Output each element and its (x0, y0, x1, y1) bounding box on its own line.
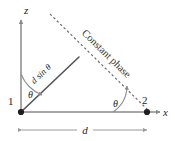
angle-label-origin: θ (28, 89, 33, 100)
antenna-path-difference-diagram: z x 1 2 θ θ d sin θ Constant phase d (0, 0, 175, 141)
angle-label-node2: θ (113, 98, 118, 109)
path-difference-label: d sin θ (29, 62, 54, 86)
constant-phase-label: Constant phase (80, 27, 134, 80)
node-dot-1 (18, 109, 24, 115)
node-label-2: 2 (142, 94, 148, 106)
x-axis-label: x (162, 106, 168, 118)
spacing-label: d (82, 124, 88, 136)
node-label-1: 1 (8, 95, 14, 107)
path-difference-line (21, 57, 79, 112)
figure-canvas: z x 1 2 θ θ d sin θ Constant phase d (0, 0, 175, 141)
constant-phase-line (50, 14, 150, 112)
z-axis-label: z (23, 4, 29, 16)
node-dot-2 (144, 109, 150, 115)
